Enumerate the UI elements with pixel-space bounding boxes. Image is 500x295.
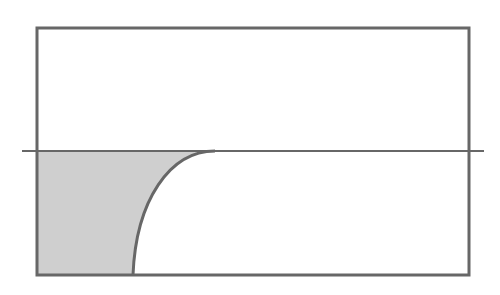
diagram-canvas [0,0,500,295]
shaded-region [37,151,215,275]
